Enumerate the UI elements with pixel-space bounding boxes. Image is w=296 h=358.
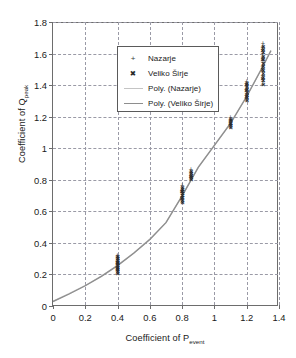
legend-item: +Nazarje <box>118 51 218 66</box>
tick-label-y: 0 <box>42 301 47 312</box>
tick-label-x: 0.2 <box>79 312 92 323</box>
legend-label: Poly. (Nazarje) <box>148 84 201 93</box>
legend-cross-icon: ✖ <box>118 70 148 78</box>
x-axis-label-main: Coefficient of P <box>126 333 190 343</box>
tick-x <box>279 305 280 309</box>
tick-label-y: 1.8 <box>34 17 47 28</box>
legend-line-swatch <box>118 85 148 93</box>
tick-label-x: 0 <box>50 312 55 323</box>
gridline-x <box>279 22 280 305</box>
tick-label-y: 1.6 <box>34 48 47 59</box>
tick-label-y: 1.2 <box>34 111 47 122</box>
tick-label-y: 1.4 <box>34 80 47 91</box>
tick-label-x: 1.2 <box>240 312 253 323</box>
legend-line <box>124 88 143 89</box>
legend-label: Veliko Širje <box>148 69 188 78</box>
tick-label-x: 1.4 <box>272 312 285 323</box>
legend-line <box>124 103 143 104</box>
tick-label-y: 0.2 <box>34 269 47 280</box>
legend-label: Poly. (Veliko Širje) <box>148 99 213 108</box>
tick-label-x: 0.8 <box>176 312 189 323</box>
x-axis-label-subscript: event <box>189 338 204 345</box>
tick-label-y: 1 <box>42 143 47 154</box>
x-axis-label: Coefficient of Pevent <box>52 333 278 345</box>
plot-area: 00.20.40.60.811.21.41.61.800.20.40.60.81… <box>52 22 278 306</box>
chart-legend: +Nazarje✖Veliko ŠirjePoly. (Nazarje)Poly… <box>117 46 219 112</box>
legend-label: Nazarje <box>148 54 176 63</box>
y-axis-label-subscript: peak <box>22 85 29 98</box>
tick-label-y: 0.4 <box>34 237 47 248</box>
legend-item: ✖Veliko Širje <box>118 66 218 81</box>
tick-label-y: 0.6 <box>34 206 47 217</box>
y-axis-label: Coefficient of Qpeak <box>17 54 29 194</box>
y-axis-label-main: Coefficient of Q <box>17 98 27 163</box>
legend-item: Poly. (Veliko Širje) <box>118 96 218 111</box>
legend-plus-icon: + <box>118 55 148 63</box>
legend-item: Poly. (Nazarje) <box>118 81 218 96</box>
tick-label-x: 0.6 <box>143 312 156 323</box>
legend-line-swatch <box>118 100 148 108</box>
tick-label-y: 0.8 <box>34 174 47 185</box>
chart-figure: Coefficient of Qpeak Coefficient of Peve… <box>0 0 296 358</box>
tick-label-x: 0.4 <box>111 312 124 323</box>
tick-label-x: 1 <box>212 312 217 323</box>
